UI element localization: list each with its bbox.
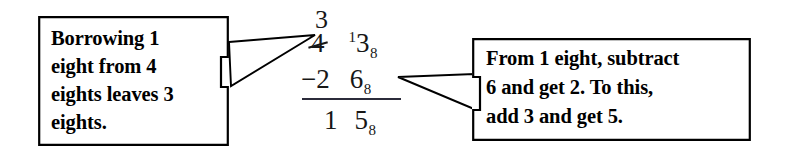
subtraction-rule <box>302 98 401 100</box>
minus-operator: − <box>301 64 316 94</box>
octal-subtraction-figure: Borrowing 1 eight from 4 eights leaves 3… <box>0 0 790 154</box>
arithmetic-work: 3 4138 −268 158 <box>296 6 426 146</box>
callout-left: Borrowing 1 eight from 4 eights leaves 3… <box>38 16 229 146</box>
answer-base-subscript: 8 <box>369 122 377 138</box>
struck-out-four: 4 <box>311 30 325 57</box>
answer-row: 158 <box>324 107 376 134</box>
subtrahend-base-subscript: 8 <box>364 81 372 97</box>
subtrahend-row: −268 <box>301 66 371 93</box>
callout-right-text: From 1 eight, subtract 6 and get 2. To t… <box>486 44 750 131</box>
minuend-ones-digit: 3 <box>356 28 370 58</box>
answer-eights-digit: 1 <box>324 105 338 135</box>
subtrahend-eights-digit: 2 <box>316 64 330 94</box>
subtrahend-ones-digit: 6 <box>350 64 364 94</box>
callout-left-text: Borrowing 1 eight from 4 eights leaves 3… <box>51 24 227 136</box>
callout-right: From 1 eight, subtract 6 and get 2. To t… <box>472 38 751 141</box>
minuend-base-subscript: 8 <box>370 45 378 61</box>
minuend-row: 4138 <box>311 30 378 57</box>
borrowed-one-superscript: 1 <box>349 29 357 45</box>
answer-ones-digit: 5 <box>355 105 369 135</box>
